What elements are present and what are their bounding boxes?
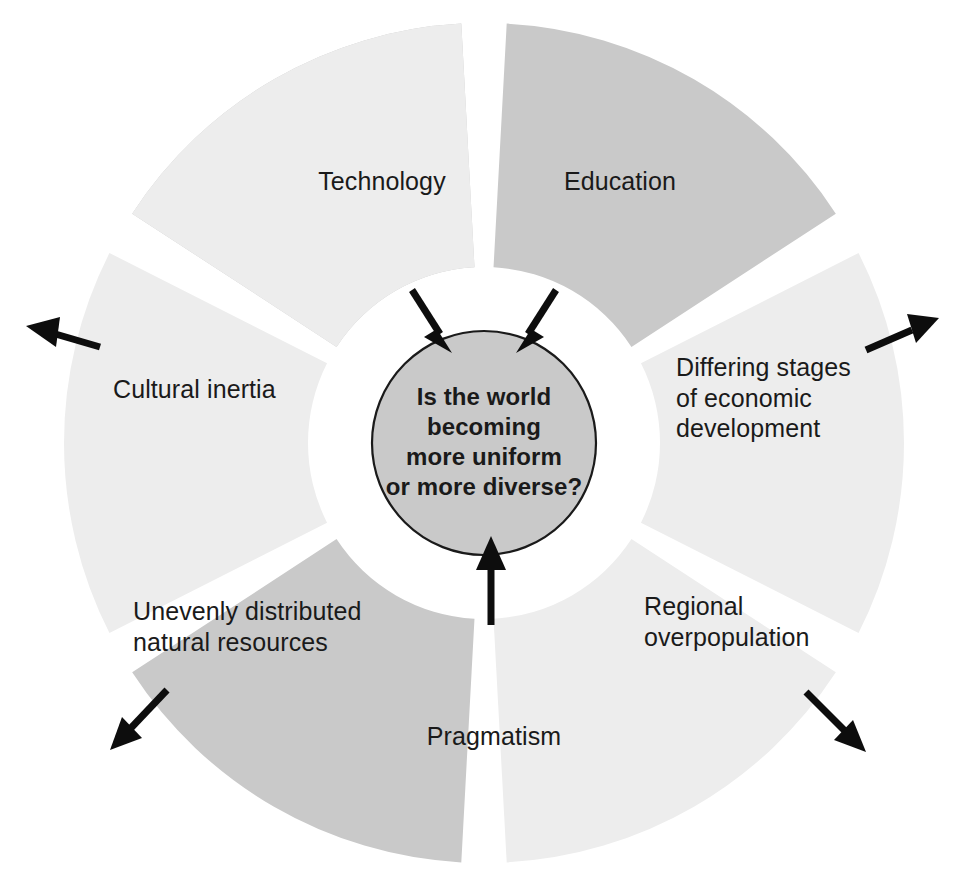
segment-label-differing-stages: Differing stages of economic development xyxy=(676,352,926,444)
arrow-regional-overpopulation-outward xyxy=(806,692,866,752)
segment-label-unevenly-distributed: Unevenly distributed natural resources xyxy=(133,596,423,657)
arrow-unevenly-distributed-outward xyxy=(110,690,167,750)
radial-diagram: Technology Education Differing stages of… xyxy=(0,0,968,887)
segment-label-regional-overpopulation: Regional overpopulation xyxy=(644,591,894,652)
segment-label-education: Education xyxy=(525,166,715,197)
center-question-text: Is the world becoming more uniform or mo… xyxy=(374,382,594,502)
segment-label-cultural-inertia: Cultural inertia xyxy=(113,374,343,405)
segment-label-pragmatism: Pragmatism xyxy=(399,721,589,752)
segment-label-technology: Technology xyxy=(287,166,477,197)
